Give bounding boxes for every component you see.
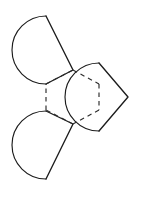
right-circle-group	[65, 63, 128, 131]
hexagon-edge-lower-right-to-bottom	[73, 110, 99, 124]
central-dashed-hexagon	[46, 70, 99, 124]
hexagon-edge-top-to-upper-right	[73, 70, 99, 84]
right-circle-arc	[65, 63, 99, 131]
bottom-left-circle-arc	[12, 111, 46, 179]
bottom-left-circle-group	[12, 111, 73, 179]
right-wedge	[99, 63, 128, 131]
bottom-left-wedge	[46, 111, 73, 179]
top-left-wedge	[46, 16, 73, 84]
figure-canvas	[0, 0, 168, 197]
top-left-circle-arc	[12, 16, 46, 84]
geometric-figure-svg	[0, 0, 168, 197]
top-left-circle-group	[12, 16, 73, 84]
